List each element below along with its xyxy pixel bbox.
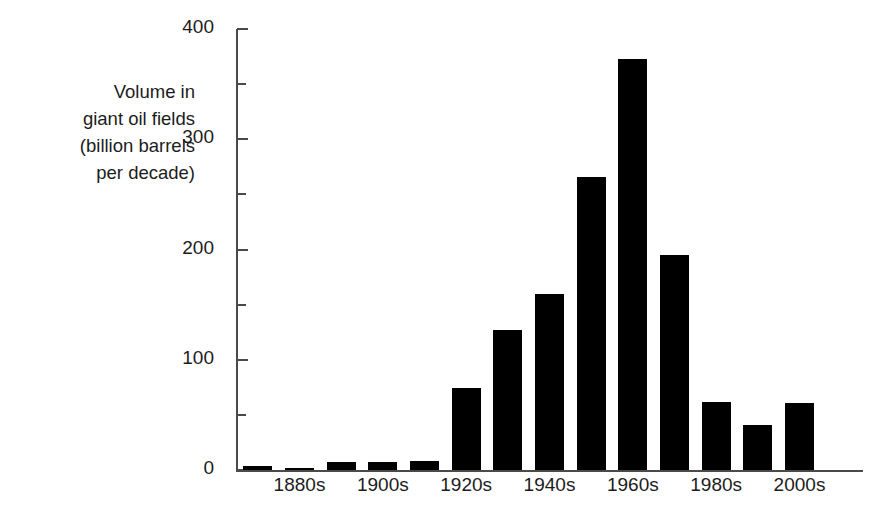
x-axis-ticks: 1880s1900s1920s1940s1960s1980s2000s: [237, 474, 862, 504]
bar-series: [237, 29, 862, 470]
y-tick-label: 300: [182, 126, 214, 148]
bar: [702, 402, 731, 470]
bar: [368, 462, 397, 470]
bar: [785, 403, 814, 470]
bar: [285, 468, 314, 470]
x-axis-spine: [236, 470, 863, 472]
bar: [577, 177, 606, 470]
bar: [743, 425, 772, 470]
bar: [327, 462, 356, 470]
x-tick-label: 2000s: [774, 474, 826, 496]
bar: [618, 59, 647, 470]
x-tick-label: 1960s: [607, 474, 659, 496]
x-tick-label: 1980s: [690, 474, 742, 496]
bar: [535, 294, 564, 470]
bar: [410, 461, 439, 470]
y-tick-label: 0: [203, 457, 214, 479]
y-tick-label: 200: [182, 237, 214, 259]
y-axis-label: Volume in giant oil fields (billion barr…: [10, 78, 195, 186]
y-tick-label: 100: [182, 347, 214, 369]
x-tick-label: 1880s: [274, 474, 326, 496]
bar: [660, 255, 689, 470]
x-tick-label: 1900s: [357, 474, 409, 496]
bar: [243, 466, 272, 470]
bar: [493, 330, 522, 470]
bar: [452, 388, 481, 470]
x-tick-label: 1920s: [440, 474, 492, 496]
x-tick-label: 1940s: [524, 474, 576, 496]
bar-chart-figure: Volume in giant oil fields (billion barr…: [0, 0, 878, 519]
y-tick-label: 400: [182, 16, 214, 38]
